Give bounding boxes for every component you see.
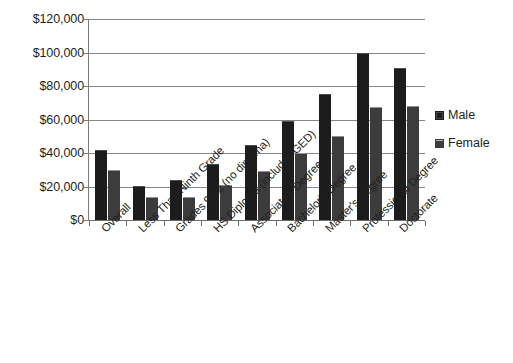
y-axis-tick bbox=[83, 86, 89, 87]
y-axis-tick-label: $20,000 bbox=[0, 180, 84, 193]
legend-label: Male bbox=[448, 109, 475, 122]
legend-label: Female bbox=[448, 137, 490, 150]
x-axis-tick bbox=[350, 221, 351, 226]
x-axis-tick bbox=[164, 221, 165, 226]
x-axis-tick bbox=[201, 221, 202, 226]
x-axis-tick bbox=[238, 221, 239, 226]
x-axis-tick bbox=[388, 221, 389, 226]
y-axis-tick-label: $0 bbox=[0, 214, 84, 227]
x-axis-tick bbox=[126, 221, 127, 226]
y-axis-tick bbox=[83, 153, 89, 154]
male-swatch-icon bbox=[435, 111, 444, 120]
bar-female bbox=[370, 107, 382, 220]
y-axis-tick bbox=[83, 53, 89, 54]
female-swatch-icon bbox=[435, 139, 444, 148]
x-axis-tick bbox=[276, 221, 277, 226]
legend-item-female[interactable]: Female bbox=[435, 133, 513, 153]
x-axis-tick bbox=[89, 221, 90, 226]
x-axis-tick bbox=[425, 221, 426, 226]
x-axis-labels: OverallLess Than Ninth GradeGrades 9-12 … bbox=[89, 226, 425, 363]
y-axis-tick-label: $60,000 bbox=[0, 113, 84, 126]
chart-legend: MaleFemale bbox=[435, 105, 513, 161]
y-axis-tick-label: $80,000 bbox=[0, 80, 84, 93]
y-axis-labels: $0$20,000$40,000$60,000$80,000$100,000$1… bbox=[0, 0, 84, 363]
y-axis-tick-label: $120,000 bbox=[0, 13, 84, 26]
y-axis-tick-label: $100,000 bbox=[0, 46, 84, 59]
bar-chart: $0$20,000$40,000$60,000$80,000$100,000$1… bbox=[0, 0, 513, 363]
y-axis-tick-label: $40,000 bbox=[0, 147, 84, 160]
legend-item-male[interactable]: Male bbox=[435, 105, 513, 125]
y-axis-tick bbox=[83, 120, 89, 121]
y-axis-tick bbox=[83, 187, 89, 188]
y-axis-tick bbox=[83, 19, 89, 20]
bar-male bbox=[95, 150, 107, 220]
bar-female bbox=[407, 106, 419, 220]
bar-male bbox=[133, 186, 145, 220]
x-axis-tick bbox=[313, 221, 314, 226]
